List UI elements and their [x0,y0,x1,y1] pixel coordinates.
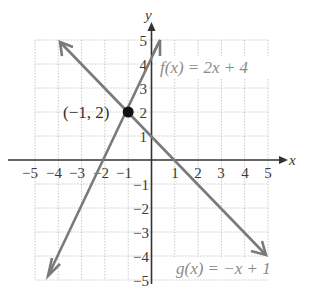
g-function-label: g(x) = −x + 1 [176,259,271,278]
svg-text:1: 1 [171,165,179,181]
svg-text:−5: −5 [133,273,149,289]
svg-text:−5: −5 [22,165,38,181]
coordinate-plane: x y −5 −4 −3 −2 −1 1 2 3 4 5 5 4 3 2 1 −… [0,0,310,300]
svg-text:−3: −3 [133,225,149,241]
intersection-point [123,107,134,118]
y-tick-labels: 5 4 3 2 1 −1 −2 −3 −4 −5 [133,33,149,289]
svg-text:2: 2 [194,165,202,181]
svg-text:3: 3 [217,165,225,181]
x-axis-label: x [288,152,296,168]
x-axis-arrow-icon [279,156,288,164]
y-axis-label: y [143,7,152,23]
svg-text:−1: −1 [133,177,149,193]
svg-text:−4: −4 [133,249,149,265]
f-function-label: f(x) = 2x + 4 [160,58,249,77]
y-axis-arrow-icon [148,22,156,31]
svg-text:−4: −4 [46,165,62,181]
svg-text:2: 2 [140,105,148,121]
svg-text:5: 5 [264,165,272,181]
svg-text:−3: −3 [69,165,85,181]
svg-text:4: 4 [241,165,249,181]
svg-text:5: 5 [140,33,148,49]
intersection-label: (−1, 2) [63,103,109,122]
svg-text:−2: −2 [133,201,149,217]
svg-text:−1: −1 [116,165,132,181]
